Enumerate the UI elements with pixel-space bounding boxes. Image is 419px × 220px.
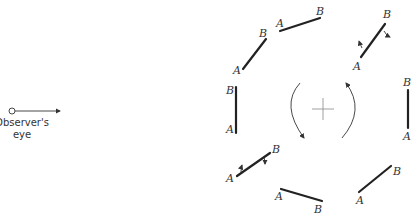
- svg-text:A: A: [402, 130, 411, 143]
- rotation-arrow-left: [291, 83, 304, 138]
- eye-icon: [9, 108, 15, 114]
- rod-upper-left: A B: [232, 27, 267, 77]
- rod-top: A B: [275, 5, 324, 31]
- svg-text:B: B: [392, 165, 401, 178]
- svg-text:A: A: [275, 17, 284, 30]
- svg-text:B: B: [402, 76, 411, 89]
- svg-text:A: A: [274, 190, 283, 203]
- svg-text:A: A: [355, 194, 364, 207]
- svg-text:A: A: [225, 172, 234, 185]
- svg-text:A: A: [232, 64, 241, 77]
- observer-label: Observer's: [0, 117, 49, 128]
- rod-bottom: A B: [274, 189, 322, 216]
- svg-text:A: A: [225, 123, 234, 136]
- svg-text:A: A: [352, 60, 361, 73]
- rod-left: B A: [225, 84, 236, 136]
- svg-text:B: B: [382, 8, 391, 21]
- rod-lower-right: A B: [355, 165, 401, 207]
- observer-eye: Observer's eye: [0, 108, 60, 140]
- rod-right: B A: [402, 76, 411, 143]
- observer-label-eye: eye: [13, 129, 31, 140]
- rotation-center: [291, 83, 355, 138]
- rod-lower-left: A B: [225, 143, 280, 185]
- svg-text:B: B: [258, 27, 267, 40]
- rotating-rod-diagram: Observer's eye A B A B A B B A B A: [0, 0, 419, 220]
- svg-text:B: B: [315, 5, 324, 18]
- svg-text:B: B: [225, 84, 234, 97]
- svg-text:B: B: [313, 203, 322, 216]
- svg-text:B: B: [271, 143, 280, 156]
- rotation-arrow-right: [342, 83, 355, 138]
- rod-upper-right: A B: [352, 8, 391, 73]
